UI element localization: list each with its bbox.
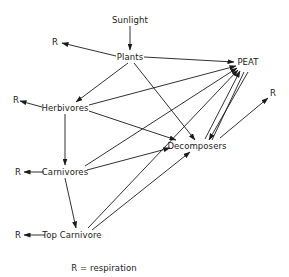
node-respiration-decomposers: R: [270, 88, 276, 98]
node-respiration-top-carnivore: R: [15, 230, 21, 240]
arrow-decomposers-peat: [205, 71, 240, 139]
node-carnivores: Carnivores: [42, 167, 88, 177]
arrow-carnivores-topcarnivore: [65, 178, 76, 228]
arrow-plants-respiration: [62, 43, 116, 56]
node-respiration-plants: R: [52, 37, 58, 47]
arrow-decomposers-respiration: [220, 98, 268, 138]
arrow-plants-herbivores: [76, 63, 128, 102]
node-plants: Plants: [117, 52, 143, 62]
arrow-topcarnivore-decomposers: [92, 152, 190, 230]
arrow-carnivores-decomposers: [87, 148, 170, 170]
node-peat: PEAT: [237, 57, 258, 67]
node-sunlight: Sunlight: [112, 15, 148, 25]
arrow-herbivores-respiration: [20, 101, 42, 107]
node-herbivores: Herbivores: [41, 103, 88, 113]
node-respiration-carnivores: R: [15, 167, 21, 177]
node-respiration-herbivores: R: [13, 95, 19, 105]
node-decomposers: Decomposers: [167, 141, 226, 151]
legend-respiration: R = respiration: [71, 263, 137, 273]
arrow-plants-peat: [144, 57, 234, 62]
node-top-carnivore: Top Carnivore: [42, 230, 101, 240]
